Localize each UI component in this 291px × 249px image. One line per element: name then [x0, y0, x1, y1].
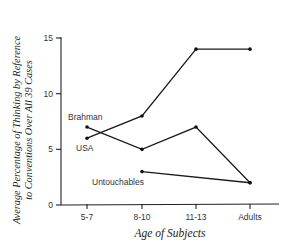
- series-label-usa: USA: [76, 143, 94, 153]
- y-tick-label: 0: [48, 200, 53, 210]
- x-ticks: 5-78-1011-13Adults: [81, 204, 262, 222]
- series-label-untouchables: Untouchables: [92, 177, 144, 187]
- data-point: [85, 125, 89, 129]
- x-tick-label: 11-13: [185, 212, 206, 222]
- y-axis-title-line-2: to Conventions Over All 39 Cases: [23, 60, 34, 200]
- data-point: [194, 47, 198, 51]
- x-axis: [61, 204, 279, 205]
- series-line-usa: [87, 49, 250, 138]
- line-chart: Average Percentage of Thinking by Refere…: [0, 0, 291, 249]
- x-tick-label: 5-7: [81, 212, 94, 222]
- y-axis-title-line-1: Average Percentage of Thinking by Refere…: [11, 35, 22, 225]
- data-point: [194, 125, 198, 129]
- x-tick-label: Adults: [238, 212, 262, 222]
- y-tick-label: 15: [44, 33, 54, 43]
- data-point: [140, 148, 144, 152]
- data-point: [248, 47, 252, 51]
- y-axis-title: Average Percentage of Thinking by Refere…: [11, 35, 34, 225]
- data-point: [140, 114, 144, 118]
- x-tick-label: 8-10: [133, 212, 150, 222]
- y-tick-label: 10: [44, 89, 54, 99]
- y-tick-label: 5: [48, 144, 53, 154]
- y-ticks: 051015: [44, 33, 61, 210]
- data-point: [248, 181, 252, 185]
- data-point: [140, 170, 144, 174]
- data-point: [85, 136, 89, 140]
- series-label-brahman: Brahman: [68, 112, 103, 122]
- series-group: [85, 47, 252, 184]
- x-axis-title: Age of Subjects: [134, 227, 206, 240]
- series-line-untouchables: [142, 172, 250, 183]
